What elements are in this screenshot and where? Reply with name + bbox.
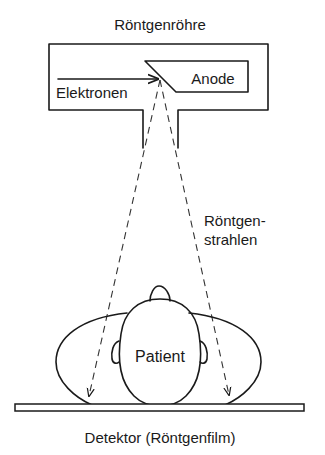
- xray-diagram: Röntgenröhre Anode Elektronen Röntgen- s…: [0, 0, 325, 455]
- tube-title: Röntgenröhre: [114, 16, 206, 33]
- xrays-label-line1: Röntgen-: [204, 212, 266, 229]
- xrays-label-line2: strahlen: [204, 231, 257, 248]
- patient-label: Patient: [135, 348, 185, 365]
- patient-left-ear: [112, 341, 119, 363]
- patient-left-shoulder: [56, 313, 127, 405]
- electrons-label: Elektronen: [56, 84, 128, 101]
- anode-label: Anode: [191, 70, 234, 87]
- detector-film: [15, 404, 304, 411]
- detector-label: Detektor (Röntgenfilm): [85, 429, 236, 446]
